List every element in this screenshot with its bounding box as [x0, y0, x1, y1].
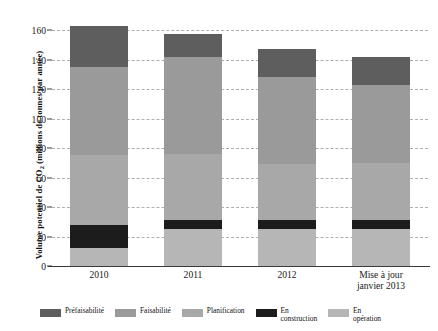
legend-color-swatch	[40, 309, 61, 317]
bar-stack	[70, 26, 128, 266]
chart-legend: PréfaisabilitéFaisabilitéPlanificationEn…	[40, 307, 420, 327]
bar-segment	[258, 164, 316, 220]
legend-label: Préfaisabilité	[65, 307, 104, 315]
x-axis-label: Mise à jourjanvier 2013	[331, 269, 431, 291]
legend-item[interactable]: En construction	[256, 307, 318, 323]
bar-segment	[258, 49, 316, 77]
y-tick-label-100: 100	[32, 113, 46, 124]
bar-segment	[352, 220, 410, 229]
x-axis-label-line: 2012	[237, 269, 337, 280]
bar-segment	[164, 57, 222, 154]
y-tick-label-0: 0	[41, 261, 46, 272]
x-axis-label: 2010	[49, 269, 149, 280]
bars-layer	[52, 30, 428, 266]
bar-segment	[164, 220, 222, 229]
bar-segment	[70, 155, 128, 224]
x-axis-label-line: 2010	[49, 269, 149, 280]
bar-segment	[352, 163, 410, 221]
legend-label: En opération	[353, 307, 381, 323]
y-axis-title: Volume potentiel de CO2 (millions de ton…	[34, 30, 44, 280]
bar-segment	[70, 248, 128, 266]
x-axis-labels: 201020112012Mise à jourjanvier 2013	[52, 269, 428, 301]
bar-segment	[258, 229, 316, 266]
y-tick-label-20: 20	[36, 231, 46, 242]
legend-color-swatch	[256, 309, 277, 317]
bar-segment	[352, 85, 410, 163]
y-tick-label-60: 60	[36, 172, 46, 183]
plot-area: 020406080100120140160	[52, 30, 428, 266]
bar-stack	[164, 34, 222, 266]
bar-segment	[164, 229, 222, 266]
bar-group	[352, 30, 410, 266]
legend-item[interactable]: Planification	[182, 307, 245, 317]
bar-segment	[70, 225, 128, 249]
bar-group	[70, 30, 128, 266]
bar-segment	[258, 220, 316, 229]
bar-segment	[70, 67, 128, 156]
bar-segment	[352, 57, 410, 85]
x-axis-label-line: Mise à jour	[331, 269, 431, 280]
legend-item[interactable]: Faisabilité	[115, 307, 171, 317]
bar-segment	[352, 229, 410, 266]
chart-root: Volume potentiel de CO2 (millions de ton…	[0, 0, 438, 331]
y-tick-label-120: 120	[32, 84, 46, 95]
x-axis-label-line: janvier 2013	[331, 280, 431, 291]
bar-stack	[352, 57, 410, 266]
y-tick-label-140: 140	[32, 54, 46, 65]
bar-segment	[258, 77, 316, 164]
legend-color-swatch	[115, 309, 136, 317]
legend-item[interactable]: En opération	[328, 307, 381, 323]
y-tick-label-40: 40	[36, 202, 46, 213]
x-axis-baseline	[48, 266, 430, 267]
bar-segment	[70, 26, 128, 67]
legend-item[interactable]: Préfaisabilité	[40, 307, 104, 317]
legend-label: Faisabilité	[140, 307, 171, 315]
legend-color-swatch	[182, 309, 203, 317]
legend-color-swatch	[328, 309, 349, 317]
x-axis-label: 2011	[143, 269, 243, 280]
legend-label: En construction	[281, 307, 318, 323]
bar-segment	[164, 34, 222, 56]
bar-group	[258, 30, 316, 266]
legend-label: Planification	[207, 307, 245, 315]
bar-group	[164, 30, 222, 266]
x-axis-label-line: 2011	[143, 269, 243, 280]
y-axis-title-subscript: 2	[38, 166, 45, 169]
y-tick-label-80: 80	[36, 143, 46, 154]
bar-segment	[164, 154, 222, 220]
bar-stack	[258, 49, 316, 266]
x-axis-label: 2012	[237, 269, 337, 280]
y-tick-label-160: 160	[32, 25, 46, 36]
